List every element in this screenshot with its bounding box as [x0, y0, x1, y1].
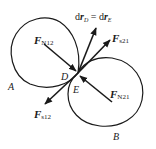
normal-force-21-arrow	[80, 76, 112, 102]
label-body-b: B	[113, 131, 119, 142]
contact-forces-diagram: FN12 FN21 Fs21 Fs12 drD = drE D E A B	[0, 0, 156, 149]
label-point-e: E	[72, 84, 79, 95]
body-a-outline	[11, 18, 79, 87]
label-normal-12: FN12	[33, 34, 54, 47]
normal-force-12-arrow	[44, 44, 76, 71]
label-friction-12: Fs12	[33, 108, 52, 121]
friction-force-21-arrow	[78, 40, 110, 73]
label-point-d: D	[60, 71, 69, 82]
label-displacement: drD = drE	[75, 11, 112, 23]
label-normal-21: FN21	[109, 88, 130, 101]
label-body-a: A	[7, 81, 15, 92]
label-friction-21: Fs21	[111, 32, 130, 45]
displacement-arrow	[78, 28, 96, 73]
